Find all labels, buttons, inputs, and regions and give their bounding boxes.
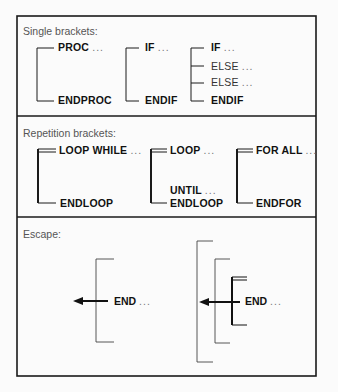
label-if-2: IF ... — [211, 42, 236, 53]
frame — [17, 16, 316, 376]
ellipsis: ... — [224, 41, 236, 53]
section-heading-escape: Escape: — [23, 229, 61, 240]
label-endloop-2: ENDLOOP — [170, 198, 223, 209]
ellipsis: ... — [242, 60, 254, 72]
keyword-if: IF — [145, 41, 155, 53]
label-loop: LOOP ... — [170, 145, 215, 156]
label-else-2: ELSE ... — [211, 77, 254, 88]
keyword-for-all: FOR ALL — [256, 144, 302, 156]
keyword-if: IF — [211, 41, 221, 53]
label-if: IF ... — [145, 42, 170, 53]
keyword-loop-while: LOOP WHILE — [59, 144, 127, 156]
label-endif-2: ENDIF — [211, 95, 244, 106]
diagram-lines — [0, 0, 338, 392]
escape-bracket-simple — [73, 259, 114, 342]
keyword-loop: LOOP — [170, 144, 200, 156]
label-proc: PROC ... — [58, 42, 104, 53]
label-until: UNTIL ... — [170, 185, 217, 196]
keyword-proc: PROC — [58, 41, 89, 53]
repetition-bracket-for-all — [237, 149, 253, 203]
label-else-1: ELSE ... — [211, 61, 254, 72]
label-for-all: FOR ALL ... — [256, 145, 317, 156]
ellipsis: ... — [130, 144, 142, 156]
ellipsis: ... — [205, 184, 217, 196]
single-bracket-if-else — [191, 48, 204, 101]
ellipsis: ... — [158, 41, 170, 53]
ellipsis: ... — [305, 144, 317, 156]
single-bracket-if — [126, 48, 139, 101]
keyword-end: END — [114, 295, 136, 307]
keyword-else: ELSE — [211, 60, 239, 72]
section-heading-repetition: Repetition brackets: — [23, 128, 116, 139]
ellipsis: ... — [242, 76, 254, 88]
keyword-until: UNTIL — [170, 184, 202, 196]
ellipsis: ... — [270, 295, 282, 307]
label-endif: ENDIF — [145, 95, 178, 106]
escape-arrow-icon — [199, 298, 209, 306]
section-heading-single: Single brackets: — [23, 26, 98, 37]
keyword-else: ELSE — [211, 76, 239, 88]
bracket-notation-diagram: Single brackets: PROC ... ENDPROC IF ...… — [0, 0, 338, 392]
escape-arrow-icon — [73, 297, 83, 305]
label-escape-end: END ... — [114, 296, 151, 307]
label-endfor: ENDFOR — [256, 198, 302, 209]
keyword-end: END — [245, 295, 267, 307]
label-escape-end-nested: END ... — [245, 296, 282, 307]
repetition-bracket-loop-while — [38, 149, 56, 203]
label-endloop: ENDLOOP — [60, 198, 113, 209]
ellipsis: ... — [92, 41, 104, 53]
escape-bracket-nested — [197, 241, 247, 362]
label-endproc: ENDPROC — [58, 95, 112, 106]
ellipsis: ... — [139, 295, 151, 307]
repetition-bracket-loop-until — [151, 149, 167, 203]
label-loop-while: LOOP WHILE ... — [59, 145, 142, 156]
ellipsis: ... — [204, 144, 216, 156]
single-bracket-proc — [37, 48, 54, 101]
